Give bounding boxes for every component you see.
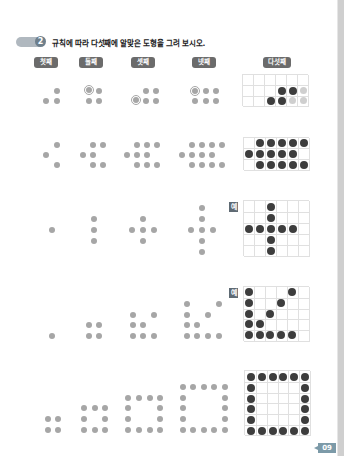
column-header-third: 셋째 (131, 57, 155, 68)
page-number: 09 (318, 443, 336, 453)
row-5-answer-grid[interactable] (244, 370, 310, 435)
row-1-answer-grid[interactable] (242, 74, 308, 106)
column-header-second: 둘째 (79, 57, 103, 68)
column-header-first: 첫째 (34, 57, 58, 68)
question-badge: 2 (16, 37, 40, 47)
row-2-answer-grid[interactable] (243, 137, 309, 170)
page-edge (338, 0, 344, 456)
page-edge-line (337, 0, 338, 456)
question-text: 규칙에 따라 다섯째에 알맞은 도형을 그려 보시오. (52, 37, 205, 48)
row-4-answer-grid[interactable] (243, 286, 309, 341)
row-3-answer-grid[interactable] (243, 200, 309, 256)
question-number: 2 (35, 36, 46, 47)
question-header: 2 규칙에 따라 다섯째에 알맞은 도형을 그려 보시오. (16, 36, 205, 48)
column-header-fifth: 다섯째 (263, 57, 291, 68)
example-label: 예 (229, 202, 238, 212)
example-label: 예 (229, 288, 238, 298)
column-header-fourth: 넷째 (192, 57, 216, 68)
